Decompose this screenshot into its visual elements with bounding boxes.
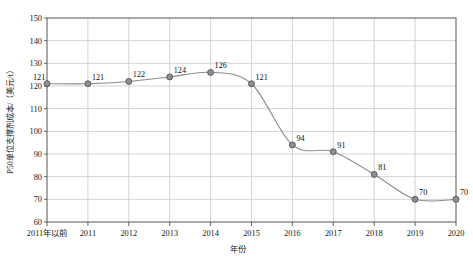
data-point-marker [453,196,459,202]
data-point-label: 124 [174,66,186,75]
y-axis-tick-label: 90 [34,150,42,159]
y-axis-title: P50单位支撑剂成本/（美元/t） [5,66,15,174]
x-axis-title: 年份 [230,244,247,254]
y-axis-tick-label: 150 [29,14,42,23]
chart-figure: 60708090100110120130140150 2011年以前201120… [0,0,473,266]
data-point-marker [412,196,418,202]
y-axis-tick-label: 70 [34,195,42,204]
data-point-label: 121 [92,73,104,82]
data-point-label: 126 [215,61,227,70]
data-point-marker [167,74,173,80]
y-axis-tick-label: 130 [29,59,42,68]
data-point-marker [289,142,295,148]
data-point-label: 121 [256,73,268,82]
y-axis-tick-label: 80 [34,173,42,182]
x-axis-tick-label: 2016 [284,229,301,238]
x-axis-tick-label: 2012 [120,229,137,238]
y-axis-tick-label: 60 [34,218,42,227]
line-chart: 60708090100110120130140150 2011年以前201120… [0,0,473,266]
data-point-marker [85,81,91,87]
y-axis-tick-label: 120 [29,82,42,91]
x-axis-tick-label: 2013 [161,229,178,238]
data-point-marker [126,78,132,84]
y-axis-tick-label: 140 [29,37,42,46]
data-point-marker [371,171,377,177]
x-axis-tick-label: 2014 [202,229,220,238]
y-axis-tick-label: 110 [30,105,42,114]
data-point-label: 81 [378,163,386,172]
data-point-marker [330,149,336,155]
x-axis-tick-label: 2020 [448,229,465,238]
x-axis-tick-label: 2019 [407,229,424,238]
chart-background [0,0,473,266]
x-axis-tick-label: 2017 [325,229,342,238]
y-axis-tick-label: 100 [29,127,42,136]
data-point-marker [208,69,214,75]
data-point-label: 121 [33,73,45,82]
data-point-label: 122 [133,70,145,79]
data-point-marker [249,81,255,87]
x-axis-tick-label: 2018 [366,229,383,238]
x-axis-tick-label: 2015 [243,229,260,238]
data-point-label: 70 [460,188,468,197]
x-axis-tick-label: 2011 [80,229,96,238]
data-point-label: 70 [419,188,427,197]
x-axis-tick-label: 2011年以前 [27,228,67,238]
data-point-label: 91 [337,141,345,150]
data-point-label: 94 [296,134,304,143]
